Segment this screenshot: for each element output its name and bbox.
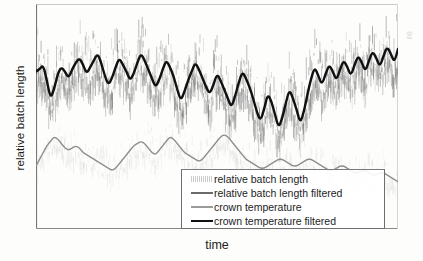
x-axis-label: time [36,238,398,252]
legend-item: relative batch length filtered [182,186,384,200]
chart-figure: relative batch length relative batch len… [0,0,423,261]
y-axis-label: relative batch length [14,38,26,198]
light-line-swatch-icon [188,200,214,214]
legend-item: relative batch length [182,172,384,186]
legend-label: relative batch length [214,173,308,185]
legend-label: relative batch length filtered [214,187,342,199]
cropped-right-axis-label: re [404,0,414,70]
chart-legend[interactable]: relative batch length relative batch len… [181,169,385,229]
legend-label: crown temperature [214,201,302,213]
legend-item: crown temperature filtered [182,214,384,228]
dark-line-swatch-icon [188,186,214,200]
legend-item: crown temperature [182,200,384,214]
legend-label: crown temperature filtered [214,215,336,227]
thick-black-line-swatch-icon [188,214,214,228]
series-relative-batch-length-noise [36,14,397,162]
noise-dark-swatch-icon [188,172,214,186]
